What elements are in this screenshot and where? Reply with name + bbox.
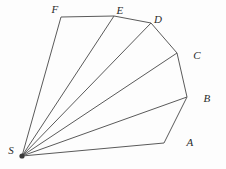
polygon-outline bbox=[22, 16, 187, 156]
diagonal-s-c bbox=[22, 53, 177, 156]
diagonal-s-b bbox=[22, 97, 187, 156]
vertex-label-a: A bbox=[187, 137, 194, 148]
diagonal-s-d bbox=[22, 23, 151, 156]
diagonal-s-e bbox=[22, 16, 114, 156]
vertex-label-d: D bbox=[154, 14, 162, 25]
vertex-label-s: S bbox=[8, 145, 14, 156]
diagonal-lines-group bbox=[22, 16, 187, 156]
apex-vertex-dot bbox=[19, 153, 24, 158]
vertex-label-e: E bbox=[117, 5, 124, 16]
vertex-label-b: B bbox=[204, 93, 211, 104]
vertex-label-f: F bbox=[52, 4, 59, 15]
geometry-figure: SABCDEF bbox=[0, 0, 226, 169]
vertex-label-c: C bbox=[193, 50, 201, 61]
